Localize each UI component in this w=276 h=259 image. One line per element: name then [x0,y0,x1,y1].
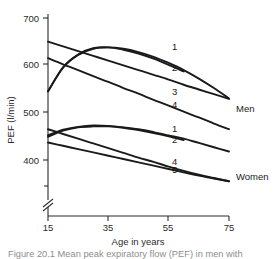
x-tick-label-75: 75 [224,222,235,233]
y-tick-label-600: 600 [23,59,39,70]
series-label-men-4: 4 [172,99,177,110]
series-line-men-4 [48,58,229,129]
series-label-women-2: 2 [172,134,177,145]
x-tick-label-35: 35 [103,222,114,233]
x-axis: 15 35 55 75 [43,216,235,233]
y-tick-label-400: 400 [23,155,39,166]
series-label-women-1: 1 [172,123,177,134]
figure-caption: Figure 20.1 Mean peak expiratory flow (P… [8,249,276,259]
y-axis-break-mark-1 [43,199,53,207]
series-label-layer: 12341245 [172,41,177,176]
y-axis-title: PEF (l/min) [5,96,16,144]
series-label-men-2: 2 [172,62,177,73]
series-line-women-4 [48,129,229,181]
series-label-women-5: 5 [172,164,177,175]
series-line-men-3 [48,42,229,99]
series-line-women-2 [48,126,184,140]
x-axis-title: Age in years [112,236,165,247]
group-label-men: Men [236,103,254,114]
y-tick-label-500: 500 [23,107,39,118]
series-layer [48,42,229,182]
x-tick-label-15: 15 [43,222,54,233]
series-label-men-3: 3 [172,86,177,97]
group-label-women: Women [236,171,269,182]
y-axis: 700 600 500 400 [23,13,53,217]
series-line-women-5 [48,142,229,181]
y-tick-label-700: 700 [23,13,39,24]
x-tick-label-55: 55 [163,222,174,233]
series-label-men-1: 1 [172,41,177,52]
